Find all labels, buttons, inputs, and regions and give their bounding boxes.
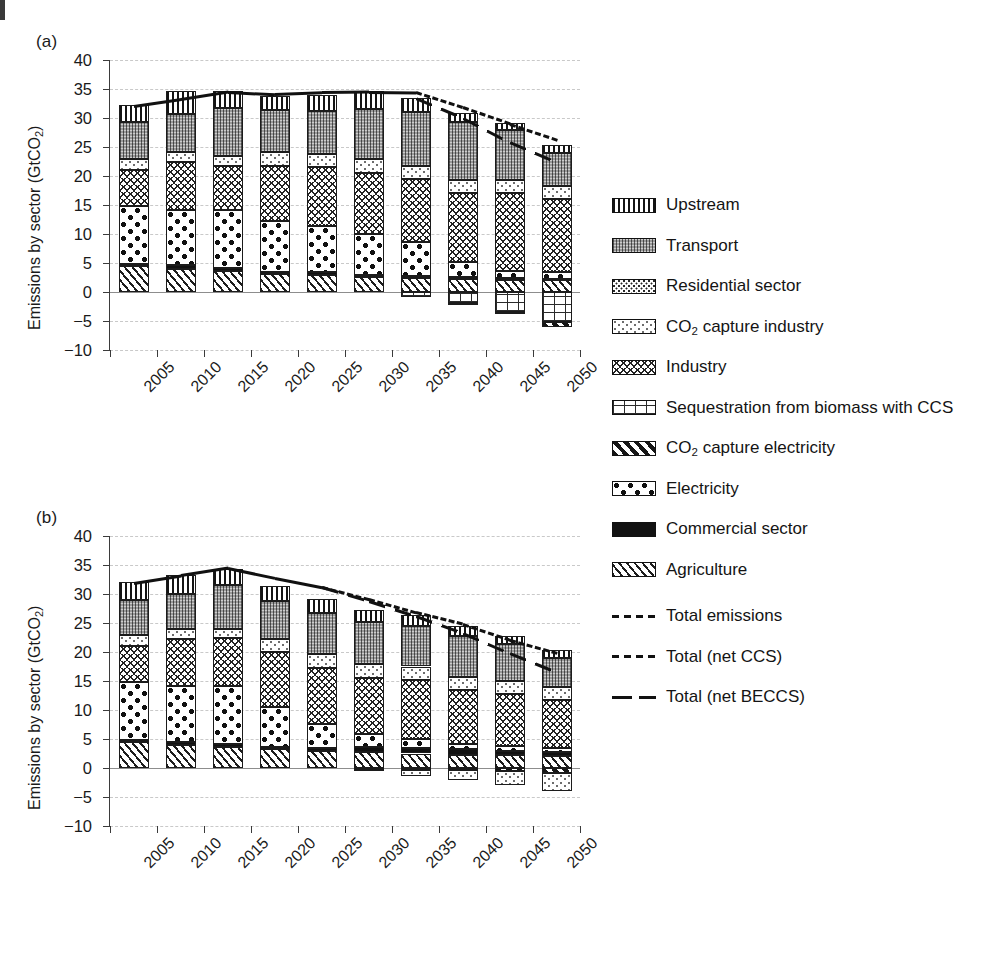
bar-segment [354, 678, 384, 734]
y-tick-label: 40 [48, 527, 92, 546]
bar-column[interactable] [307, 60, 337, 350]
bar-segment-negative [542, 322, 572, 327]
bar-segment [354, 234, 384, 275]
panel-a-plot-area: −10−505101520253035402005201020152020202… [110, 60, 580, 350]
x-tick-label: 2045 [516, 358, 554, 396]
x-tick-mark [204, 350, 205, 357]
bar-segment [542, 756, 572, 768]
bar-column[interactable] [354, 536, 384, 826]
x-tick-mark [110, 350, 111, 357]
legend-line-swatch-total_emissions [612, 609, 656, 624]
y-tick-label: 35 [48, 556, 92, 575]
bar-segment [495, 271, 525, 279]
x-tick-label: 2040 [469, 834, 507, 872]
x-tick-mark [345, 350, 346, 357]
bar-segment [213, 268, 243, 271]
bar-segment [354, 275, 384, 277]
bar-segment [401, 278, 431, 292]
bar-column[interactable] [542, 536, 572, 826]
bar-segment [401, 680, 431, 739]
legend-label-total_emissions: Total emissions [666, 606, 782, 626]
bar-column[interactable] [260, 60, 290, 350]
bar-column[interactable] [542, 60, 572, 350]
bar-segment [542, 279, 572, 281]
bar-segment-negative [448, 770, 478, 780]
legend-swatch-residential [612, 279, 656, 294]
y-tick-label: 25 [48, 138, 92, 157]
bar-segment [260, 221, 290, 271]
bar-segment [401, 626, 431, 666]
x-tick-mark [392, 826, 393, 833]
bar-column[interactable] [448, 536, 478, 826]
legend-item-total_emissions[interactable]: Total emissions [612, 606, 782, 626]
x-tick-label: 2005 [140, 834, 178, 872]
y-tick-label: 40 [48, 51, 92, 70]
legend-item-industry[interactable]: Industry [612, 357, 726, 377]
legend-item-co2_elec[interactable]: CO2 capture electricity [612, 438, 835, 458]
bar-segment [307, 275, 337, 292]
bar-column[interactable] [166, 536, 196, 826]
legend-item-agriculture[interactable]: Agriculture [612, 560, 747, 580]
x-tick-label: 2020 [281, 358, 319, 396]
bar-segment [495, 755, 525, 768]
bar-segment [542, 145, 572, 153]
y-tick-label: 5 [48, 254, 92, 273]
legend-label-electricity: Electricity [666, 479, 739, 499]
x-tick-label: 2005 [140, 358, 178, 396]
bar-segment [213, 156, 243, 165]
bar-segment [448, 262, 478, 277]
bar-column[interactable] [213, 536, 243, 826]
legend-label-agriculture: Agriculture [666, 560, 747, 580]
panel-b: (b) Emissions by sector (GtCO2) −10−5051… [0, 480, 600, 960]
legend-item-residential[interactable]: Residential sector [612, 276, 801, 296]
bar-segment [307, 95, 337, 111]
bar-segment [354, 747, 384, 752]
legend-item-total_net_ccs[interactable]: Total (net CCS) [612, 647, 782, 667]
legend-item-electricity[interactable]: Electricity [612, 479, 739, 499]
bar-column[interactable] [166, 60, 196, 350]
y-axis-line [109, 536, 110, 826]
legend-item-transport[interactable]: Transport [612, 236, 738, 256]
bar-segment [542, 687, 572, 700]
bar-column[interactable] [495, 536, 525, 826]
legend-swatch-industry [612, 360, 656, 375]
bar-segment [401, 667, 431, 680]
bar-segment [213, 210, 243, 269]
bar-segment [166, 265, 196, 268]
bar-column[interactable] [213, 60, 243, 350]
legend-label-industry: Industry [666, 357, 726, 377]
x-tick-mark [392, 350, 393, 357]
bar-segment [166, 162, 196, 210]
y-tick-label: −5 [48, 312, 92, 331]
panel-a-tag: (a) [36, 32, 57, 52]
panel-a-y-axis-label: Emissions by sector (GtCO2) [26, 126, 44, 330]
legend-item-upstream[interactable]: Upstream [612, 195, 740, 215]
bar-segment [307, 724, 337, 748]
bar-segment [354, 622, 384, 664]
legend-item-beccs[interactable]: Sequestration from biomass with CCS [612, 398, 953, 418]
x-tick-label: 2010 [187, 834, 225, 872]
bar-segment [401, 179, 431, 241]
y-tick-label: 20 [48, 167, 92, 186]
bar-segment-negative [401, 292, 431, 297]
legend-swatch-co2_industry [612, 319, 656, 334]
bar-column[interactable] [307, 536, 337, 826]
bar-segment [448, 180, 478, 193]
y-tick-label: 20 [48, 643, 92, 662]
legend-item-total_net_beccs[interactable]: Total (net BECCS) [612, 687, 805, 707]
bar-segment [354, 664, 384, 678]
bar-segment [401, 242, 431, 276]
legend-label-residential: Residential sector [666, 276, 801, 296]
x-tick-mark [298, 350, 299, 357]
bar-segment [260, 601, 290, 639]
legend-item-commercial[interactable]: Commercial sector [612, 519, 808, 539]
bar-column[interactable] [401, 536, 431, 826]
bar-segment [260, 652, 290, 707]
bar-column[interactable] [495, 60, 525, 350]
panel-b-tag: (b) [36, 508, 57, 528]
bar-segment [119, 206, 149, 263]
bar-segment [495, 681, 525, 694]
bar-segment [354, 734, 384, 747]
legend-item-co2_industry[interactable]: CO2 capture industry [612, 317, 824, 337]
bar-column[interactable] [354, 60, 384, 350]
